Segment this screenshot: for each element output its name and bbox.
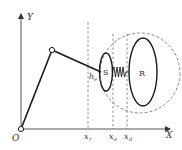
- base-joint: [18, 126, 23, 131]
- arm-link-2: [52, 50, 101, 72]
- label-x-e: x e: [109, 132, 117, 142]
- label-r: R: [139, 69, 146, 78]
- spring: [112, 67, 129, 77]
- label-x-d: x d: [124, 132, 132, 142]
- arm-link-1: [21, 50, 52, 129]
- svg-text:e: e: [94, 76, 97, 82]
- label-s: S: [103, 68, 108, 77]
- diagram-canvas: Y X O S R h e x r x e x d: [0, 0, 182, 150]
- svg-text:r: r: [89, 136, 92, 142]
- origin-label: O: [12, 133, 20, 143]
- label-h-e: h e: [89, 72, 97, 82]
- y-axis-label: Y: [27, 12, 34, 22]
- svg-text:d: d: [129, 136, 132, 142]
- elbow-joint: [49, 47, 54, 52]
- svg-text:e: e: [114, 136, 117, 142]
- label-x-r: x r: [84, 132, 92, 142]
- x-axis-label: X: [165, 130, 173, 140]
